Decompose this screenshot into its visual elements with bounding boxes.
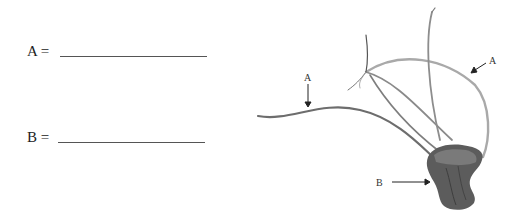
organism-body: [427, 145, 483, 210]
figure-label-b: B: [376, 177, 383, 188]
figure-label-a-left: A: [304, 72, 312, 83]
organism-figure: A A B: [0, 0, 515, 221]
figure-label-a-right: A: [489, 55, 497, 66]
